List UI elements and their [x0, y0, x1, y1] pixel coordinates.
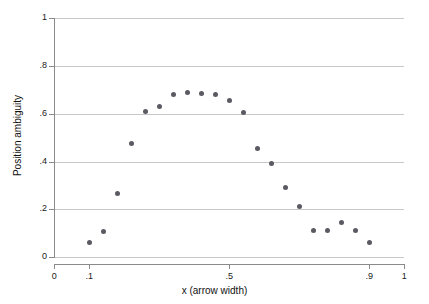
x-axis-tick [369, 264, 370, 269]
y-axis-tick-label: .6 [39, 109, 47, 118]
y-axis-tick [49, 18, 55, 19]
data-point [269, 161, 274, 166]
y-axis-tick [49, 66, 55, 67]
data-point [241, 110, 246, 115]
data-point [185, 90, 190, 95]
data-point [311, 228, 316, 233]
data-point [157, 104, 162, 109]
gridline-y [54, 66, 404, 67]
data-point [353, 228, 358, 233]
y-axis-tick-label: 1 [42, 13, 47, 22]
data-point [213, 92, 218, 97]
data-point [87, 240, 92, 245]
x-axis-tick [229, 264, 230, 269]
data-point [367, 240, 372, 245]
y-axis-tick [49, 162, 55, 163]
data-point [255, 146, 260, 151]
plot-area [54, 18, 404, 257]
x-axis-tick [89, 264, 90, 269]
data-point [199, 91, 204, 96]
data-point [129, 141, 134, 146]
y-axis-tick [49, 257, 55, 258]
y-axis-tick [49, 114, 55, 115]
y-axis-line [54, 18, 55, 257]
data-point [115, 191, 120, 196]
gridline-y [54, 162, 404, 163]
gridline-y [54, 257, 404, 258]
data-point [325, 228, 330, 233]
y-axis-tick-label: 0 [42, 252, 47, 261]
x-axis-title: x (arrow width) [0, 285, 429, 296]
data-point [171, 92, 176, 97]
gridline-y [54, 209, 404, 210]
data-point [227, 98, 232, 103]
x-axis-tick [54, 264, 55, 269]
data-point [101, 229, 106, 234]
y-axis-tick-label: .8 [39, 61, 47, 70]
data-point [339, 220, 344, 225]
y-axis-tick [49, 209, 55, 210]
x-axis-tick-label: .5 [217, 271, 241, 281]
data-point [143, 109, 148, 114]
y-axis-title: Position ambiguity [12, 56, 23, 216]
data-point [297, 204, 302, 209]
gridline-y [54, 18, 404, 19]
y-axis-tick-label: .2 [39, 204, 47, 213]
y-axis-tick-label: .4 [39, 157, 47, 166]
scatter-plot-figure: Position ambiguity x (arrow width) 0.2.4… [0, 0, 429, 304]
x-axis-tick-label: .9 [357, 271, 381, 281]
x-axis-tick-label: 0 [42, 271, 66, 281]
x-axis-tick-label: 1 [392, 271, 416, 281]
x-axis-tick [404, 264, 405, 269]
gridline-y [54, 114, 404, 115]
data-point [283, 185, 288, 190]
x-axis-tick-label: .1 [77, 271, 101, 281]
